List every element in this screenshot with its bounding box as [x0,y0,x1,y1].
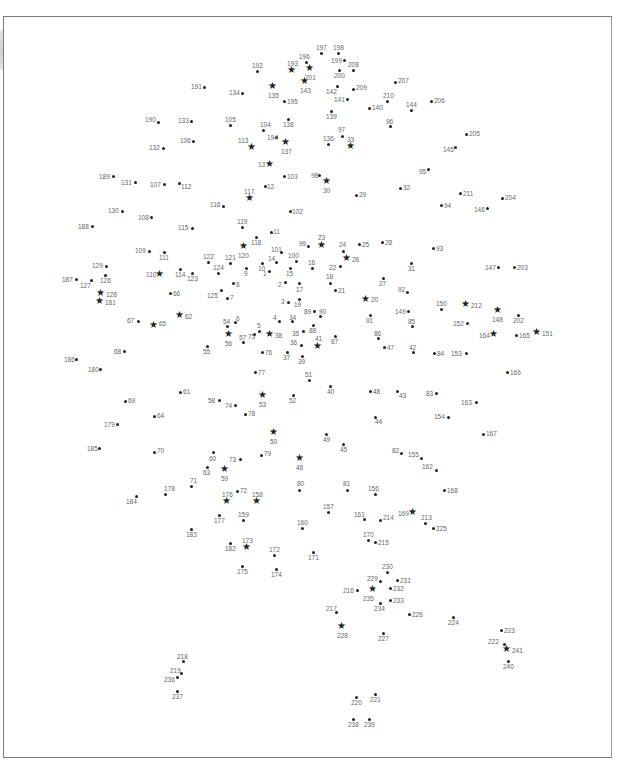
dot-marker [190,485,193,488]
dot-number-label: 70 [157,447,164,454]
dot-number-label: 79 [264,450,271,457]
dot-number-label: 123 [187,275,198,282]
dot-marker [407,310,410,313]
dot-marker [356,589,359,592]
dot-number-label: 114 [175,271,185,278]
dot-number-label: 138 [283,121,294,128]
dot-marker [191,227,194,230]
dot-number-label: 51 [305,371,312,378]
dot-number-label: 57 [239,334,246,341]
dot-number-label: 206 [434,97,445,104]
dot-number-label: 44 [375,418,382,425]
dot-number-label: 176 [222,491,233,498]
dot-number-label: 39 [298,358,305,365]
dot-marker [176,676,179,679]
dot-number-label: 96 [386,118,393,125]
dot-number-label: 14 [268,255,275,262]
dot-marker [430,100,433,103]
dot-marker [273,554,276,557]
dot-number-label: 224 [448,619,459,626]
dot-marker [169,292,172,295]
dot-marker [241,226,244,229]
dot-number-label: 98 [311,172,318,179]
dot-marker [222,205,225,208]
dot-number-label: 146 [474,206,485,213]
dot-number-label: 137 [281,148,292,155]
dot-number-label: 144 [406,101,417,108]
dot-marker [179,391,182,394]
dot-number-label: 233 [393,597,404,604]
dot-number-label: 167 [486,430,497,437]
dot-number-label: 52 [289,397,296,404]
dot-number-label: 34 [289,314,296,321]
dot-marker [148,250,151,253]
dot-number-label: 205 [469,130,480,137]
dot-marker [241,92,244,95]
star-icon: ★ [295,453,304,463]
dot-marker [220,289,223,292]
dot-number-label: 228 [337,632,348,639]
star-icon: ★ [269,427,278,437]
dot-marker [433,352,436,355]
dot-number-label: 152 [453,320,464,327]
dot-number-label: 65 [159,320,166,327]
dot-number-label: 235 [363,595,374,602]
dot-number-label: 147 [485,264,496,271]
dot-number-label: 71 [190,477,197,484]
dot-number-label: 212 [471,302,482,309]
dot-number-label: 112 [181,183,191,190]
dot-number-label: 169 [398,510,409,517]
dot-number-label: 230 [382,563,393,570]
dot-marker [396,579,399,582]
dot-number-label: 178 [164,485,175,492]
dot-marker [329,282,332,285]
dot-marker [308,379,311,382]
dot-number-label: 210 [383,92,394,99]
dot-number-label: 72 [240,487,247,494]
dot-number-label: 129 [92,262,103,269]
dot-number-label: 217 [326,605,337,612]
dot-number-label: 161 [354,511,365,518]
dot-number-label: 9 [244,270,248,277]
star-icon: ★ [361,294,370,304]
dot-marker [236,490,239,493]
dot-marker [283,175,286,178]
dot-marker [406,291,409,294]
dot-marker [256,70,259,73]
dot-number-label: 183 [186,531,197,538]
dot-number-label: 28 [385,239,392,246]
dot-number-label: 11 [273,228,280,235]
star-icon: ★ [220,464,229,474]
dot-number-label: 168 [447,487,458,494]
dot-number-label: 67 [127,317,134,324]
dot-marker [218,399,221,402]
dot-number-label: 145 [443,146,454,153]
dot-marker [268,270,271,273]
dot-marker [482,433,485,436]
dot-marker [440,204,443,207]
dot-number-label: 203 [517,264,528,271]
dot-marker [75,278,78,281]
dot-number-label: 122 [203,253,214,260]
dot-marker [284,281,287,284]
dot-number-label: 75 [248,333,255,340]
dot-number-label: 197 [316,44,327,51]
dot-number-label: 141 [334,96,345,103]
star-icon: ★ [502,644,511,654]
dot-number-label: 56 [225,340,232,347]
dot-number-label: 188 [78,223,89,230]
dot-number-label: 89 [304,308,311,315]
dot-number-label: 104 [260,121,271,128]
dot-marker [190,120,193,123]
dot-number-label: 182 [225,545,236,552]
dot-number-label: 97 [338,126,345,133]
dot-number-label: 177 [214,517,225,524]
dot-number-label: 192 [252,62,263,69]
dot-number-label: 76 [265,349,272,356]
dot-number-label: 232 [393,585,404,592]
dot-marker [346,489,349,492]
dot-marker [123,350,126,353]
dot-marker [352,88,355,91]
dot-marker [337,52,340,55]
dot-number-label: 29 [359,191,366,198]
